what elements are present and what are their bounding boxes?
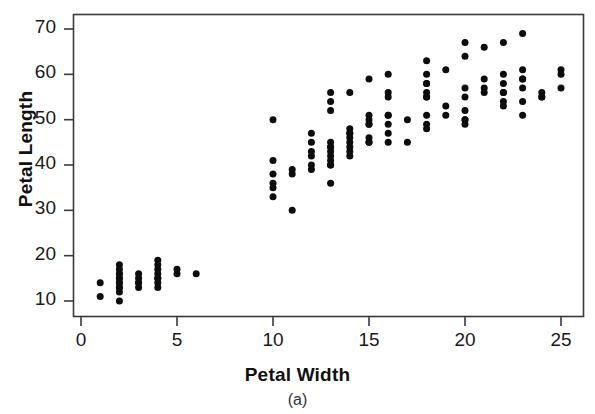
data-point xyxy=(558,84,565,91)
data-point xyxy=(270,157,277,164)
data-point xyxy=(366,121,373,128)
data-point xyxy=(462,39,469,46)
data-point xyxy=(327,98,334,105)
data-point xyxy=(442,112,449,119)
data-point xyxy=(558,71,565,78)
data-point xyxy=(519,75,526,82)
data-point xyxy=(423,112,430,119)
data-point xyxy=(404,139,411,146)
data-point xyxy=(327,107,334,114)
data-point xyxy=(519,84,526,91)
data-point xyxy=(270,184,277,191)
data-point xyxy=(346,152,353,159)
data-point xyxy=(423,57,430,64)
data-point xyxy=(270,193,277,200)
data-point xyxy=(135,284,142,291)
data-point xyxy=(270,116,277,123)
data-point xyxy=(97,293,104,300)
data-point xyxy=(385,71,392,78)
data-point xyxy=(270,171,277,178)
data-point xyxy=(538,94,545,101)
data-point xyxy=(308,139,315,146)
data-points-layer xyxy=(97,30,565,304)
data-point xyxy=(308,166,315,173)
data-point xyxy=(462,94,469,101)
data-point xyxy=(327,180,334,187)
data-point xyxy=(346,89,353,96)
data-point xyxy=(462,84,469,91)
data-point xyxy=(481,89,488,96)
data-point xyxy=(327,162,334,169)
data-point xyxy=(423,71,430,78)
data-point xyxy=(289,207,296,214)
data-point xyxy=(462,121,469,128)
data-point xyxy=(500,89,507,96)
data-point xyxy=(481,75,488,82)
data-point xyxy=(174,270,181,277)
data-point xyxy=(366,139,373,146)
data-point xyxy=(500,103,507,110)
data-point xyxy=(442,103,449,110)
data-point xyxy=(423,94,430,101)
data-point xyxy=(481,44,488,51)
data-point xyxy=(385,121,392,128)
data-point xyxy=(116,298,123,305)
data-point xyxy=(366,75,373,82)
data-point xyxy=(423,80,430,87)
data-point xyxy=(193,270,200,277)
data-point xyxy=(385,112,392,119)
data-point xyxy=(462,53,469,60)
data-point xyxy=(385,139,392,146)
data-point xyxy=(519,112,526,119)
data-point xyxy=(519,66,526,73)
data-point xyxy=(462,107,469,114)
data-point xyxy=(519,30,526,37)
data-point xyxy=(404,116,411,123)
data-point xyxy=(519,98,526,105)
data-point xyxy=(500,80,507,87)
data-point xyxy=(308,130,315,137)
data-point xyxy=(154,284,161,291)
data-point xyxy=(500,39,507,46)
data-point xyxy=(442,66,449,73)
data-point xyxy=(308,152,315,159)
data-point xyxy=(116,288,123,295)
scatter-plot-canvas xyxy=(0,0,595,414)
data-point xyxy=(327,89,334,96)
data-point xyxy=(423,125,430,132)
figure-container: Petal Length Petal Width (a) 10203040506… xyxy=(0,0,595,414)
data-point xyxy=(289,171,296,178)
data-point xyxy=(500,71,507,78)
data-point xyxy=(97,279,104,286)
data-point xyxy=(385,130,392,137)
data-point xyxy=(385,94,392,101)
